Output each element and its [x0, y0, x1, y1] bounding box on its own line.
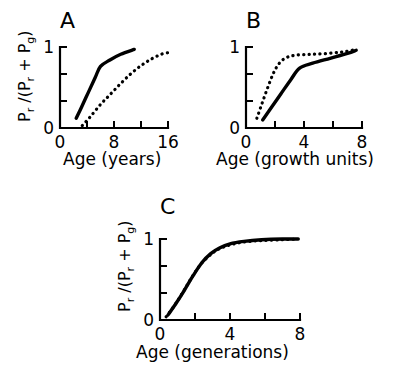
- panel-a-letter: A: [60, 8, 75, 33]
- panel-c-xtick-label: 0: [155, 324, 166, 344]
- panel-c-xlabel: Age (generations): [136, 342, 289, 362]
- panel-c-ylabel: Pr /(Pr + Pg): [115, 220, 137, 312]
- panel-a: A Pr /(Pr + Pg) 081601 Age (years): [0, 0, 205, 180]
- panel-c-curve-dotted: [166, 239, 298, 317]
- ylabel-sub3: g: [124, 227, 137, 234]
- ylabel-p1: P: [15, 112, 34, 122]
- panel-c-xtick-label: 4: [225, 324, 236, 344]
- ylabel-sub3: g: [24, 37, 37, 44]
- ylabel-close: ): [115, 220, 134, 226]
- panel-b-letter: B: [246, 8, 261, 33]
- ylabel-plus: +: [15, 53, 34, 77]
- panel-c-curves: [166, 239, 298, 317]
- ylabel-close: ): [15, 30, 34, 36]
- svg-text:Pr /(Pr + Pg): Pr /(Pr + Pg): [115, 220, 137, 312]
- ylabel-slash: /(: [15, 91, 34, 108]
- ylabel-slash: /(: [115, 281, 134, 298]
- ylabel-p1: P: [115, 302, 134, 312]
- ylabel-p3: P: [15, 43, 34, 53]
- panel-a-ytick-label: 0: [43, 118, 54, 138]
- ylabel-plus: +: [115, 243, 134, 267]
- ylabel-p2: P: [15, 81, 34, 91]
- panel-a-ylabel: Pr /(Pr + Pg): [15, 30, 37, 122]
- panel-b-xlabel: Age (growth units): [216, 149, 374, 169]
- panel-b-ytick-label: 1: [229, 37, 240, 57]
- panel-c-axis-spine: [160, 239, 300, 320]
- panel-b-ytick-label: 0: [229, 118, 240, 138]
- panel-b-plot: B 04801 Age (growth units): [202, 0, 411, 180]
- panel-c-ytick-label: 0: [143, 310, 154, 330]
- panel-c-letter: C: [160, 194, 175, 219]
- panel-b-curves: [257, 49, 356, 119]
- panel-b-curve-solid: [263, 50, 357, 120]
- panel-b: B 04801 Age (growth units): [202, 0, 411, 180]
- panel-c-axes: [160, 239, 300, 320]
- svg-text:Pr /(Pr + Pg): Pr /(Pr + Pg): [15, 30, 37, 122]
- panel-b-axes: [246, 47, 362, 128]
- panel-c-ytick-label: 1: [143, 229, 154, 249]
- panel-b-axis-spine: [246, 47, 362, 128]
- panel-c: C Pr /(Pr + Pg) 04801 Age (generations): [100, 186, 360, 370]
- ylabel-p3: P: [115, 233, 134, 243]
- panel-a-plot: A Pr /(Pr + Pg) 081601 Age (years): [0, 0, 205, 180]
- panel-c-xtick-label: 8: [295, 324, 306, 344]
- panel-a-curve-dotted: [82, 53, 168, 126]
- ylabel-p2: P: [115, 271, 134, 281]
- panel-a-xlabel: Age (years): [63, 149, 161, 169]
- panel-c-curve-solid: [168, 239, 298, 315]
- figure-container: A Pr /(Pr + Pg) 081601 Age (years) B 048…: [0, 0, 411, 370]
- panel-c-plot: C Pr /(Pr + Pg) 04801 Age (generations): [100, 186, 360, 370]
- panel-a-ytick-label: 1: [43, 37, 54, 57]
- panel-a-curves: [76, 49, 168, 125]
- panel-a-curve-solid: [76, 49, 134, 118]
